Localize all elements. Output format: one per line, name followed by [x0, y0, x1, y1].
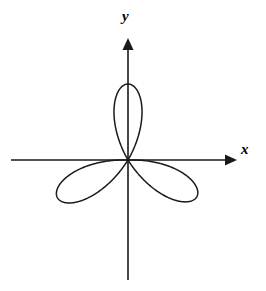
plot-canvas — [0, 0, 266, 291]
x-axis-label: x — [241, 142, 249, 157]
polar-rose-figure: y x — [0, 0, 266, 291]
y-axis-label: y — [122, 9, 129, 24]
x-axis-arrowhead-icon — [225, 155, 237, 166]
y-axis-arrowhead-icon — [123, 38, 134, 50]
rose-curve — [56, 84, 197, 203]
